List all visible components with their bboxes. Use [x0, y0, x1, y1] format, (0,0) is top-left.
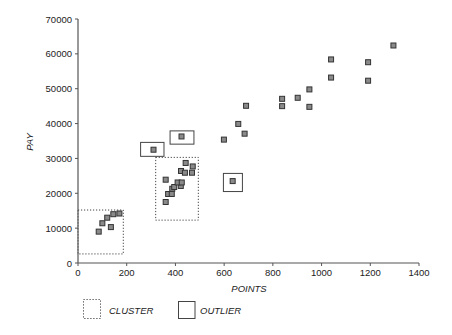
data-point — [169, 191, 174, 196]
y-axis-ticks: 010000200003000040000500006000070000 — [46, 14, 78, 269]
y-tick-label: 30000 — [46, 153, 72, 164]
legend-item-outlier: OUTLIER — [179, 302, 242, 319]
y-axis-title: PAY — [24, 133, 35, 151]
x-tick-label: 400 — [167, 267, 183, 278]
x-tick-label: 200 — [119, 267, 135, 278]
y-tick-label: 70000 — [46, 14, 72, 25]
x-tick-label: 1400 — [408, 267, 429, 278]
data-point — [151, 147, 156, 152]
data-point — [179, 134, 184, 139]
data-point — [244, 103, 249, 108]
data-point — [163, 200, 168, 205]
x-tick-label: 800 — [265, 267, 281, 278]
data-point — [111, 212, 116, 217]
data-point — [117, 211, 122, 216]
data-point — [236, 121, 241, 126]
data-point — [182, 170, 187, 175]
data-point — [295, 95, 300, 100]
axes: 010000200003000040000500006000070000 020… — [46, 14, 430, 279]
region-annotations — [78, 131, 242, 254]
data-points — [96, 43, 396, 234]
data-point — [280, 104, 285, 109]
x-axis-title: POINTS — [231, 283, 267, 294]
data-point — [100, 221, 105, 226]
y-tick-label: 60000 — [46, 48, 72, 59]
legend-item-cluster: CLUSTER — [84, 300, 154, 319]
data-point — [190, 164, 195, 169]
data-point — [221, 137, 226, 142]
data-point — [105, 215, 110, 220]
scatter-chart: 010000200003000040000500006000070000 020… — [0, 0, 452, 335]
y-tick-label: 10000 — [46, 223, 72, 234]
x-axis-ticks: 0200400600800100012001400 — [75, 263, 429, 278]
data-point — [179, 180, 184, 185]
data-point — [242, 131, 247, 136]
data-point — [366, 60, 371, 65]
data-point — [230, 179, 235, 184]
dotted-box-icon — [84, 300, 101, 319]
data-point — [189, 170, 194, 175]
x-tick-label: 600 — [216, 267, 232, 278]
legend-label-cluster: CLUSTER — [109, 305, 153, 316]
y-tick-label: 40000 — [46, 118, 72, 129]
y-tick-label: 50000 — [46, 83, 72, 94]
solid-box-icon — [179, 302, 196, 319]
data-point — [366, 78, 371, 83]
data-point — [96, 229, 101, 234]
x-tick-label: 1000 — [311, 267, 332, 278]
data-point — [391, 43, 396, 48]
data-point — [307, 104, 312, 109]
x-tick-label: 0 — [75, 267, 80, 278]
data-point — [280, 96, 285, 101]
y-tick-label: 20000 — [46, 188, 72, 199]
legend-label-outlier: OUTLIER — [200, 305, 241, 316]
x-tick-label: 1200 — [360, 267, 381, 278]
data-point — [307, 87, 312, 92]
data-point — [163, 177, 168, 182]
data-point — [329, 75, 334, 80]
data-point — [183, 160, 188, 165]
y-tick-label: 0 — [67, 258, 72, 269]
legend: CLUSTER OUTLIER — [84, 300, 242, 319]
data-point — [329, 57, 334, 62]
data-point — [108, 225, 113, 230]
